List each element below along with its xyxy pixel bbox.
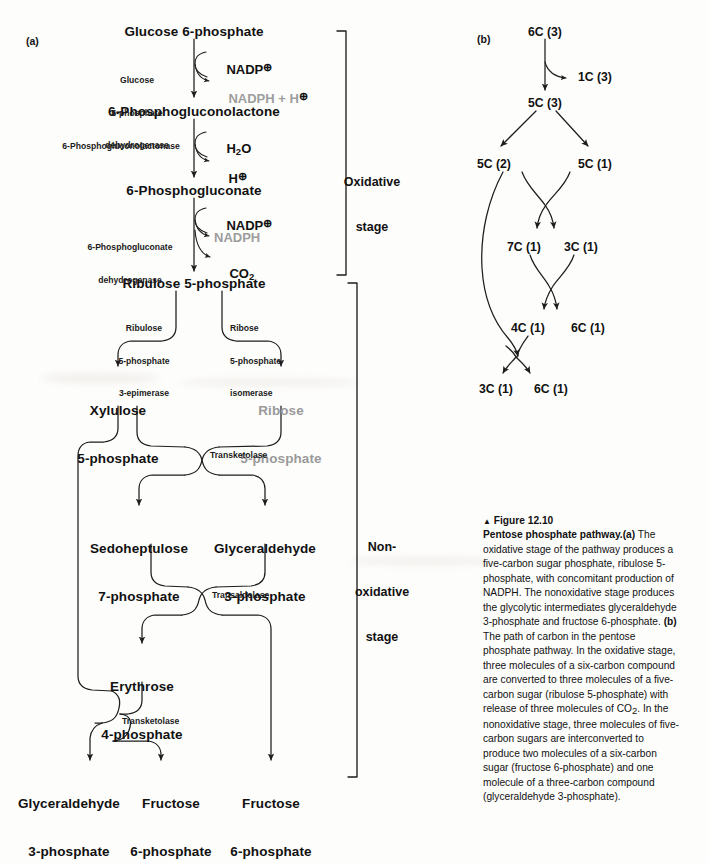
node-6c-1-middle: 6C (1) <box>571 321 605 335</box>
figure-caption: ▲ Figure 12.10 Pentose phosphate pathway… <box>483 514 679 805</box>
stage-label-oxidative: Oxidative stage <box>344 145 400 265</box>
oxidative-line2: stage <box>344 220 400 235</box>
isomerase-line3: isomerase <box>230 388 281 399</box>
cofactor-nadph-2: NADPH <box>214 230 260 245</box>
caption-a-label: (a) <box>623 529 635 540</box>
metabolite-sedoheptulose-7-phosphate: Sedoheptulose 7-phosphate <box>90 509 188 636</box>
oxidative-line1: Oxidative <box>344 175 400 190</box>
node-6c-1-bottom: 6C (1) <box>534 382 568 396</box>
g6pdh-line1: Glucose <box>105 75 169 86</box>
metabolite-fructose-6-phosphate-mid: Fructose 6-phosphate <box>130 764 211 863</box>
pgdh-line2: dehydrogenase <box>88 275 173 286</box>
cofactor-nadph-plus-h-1: NADPH + H⊕ <box>214 75 308 122</box>
node-6c-3: 6C (3) <box>528 25 562 39</box>
nonoxidative-line2: oxidative <box>355 585 409 600</box>
erythrose-line1: Erythrose <box>101 679 182 695</box>
figure-number-line: ▲ Figure 12.10 <box>483 514 679 528</box>
nonoxidative-line3: stage <box>355 630 409 645</box>
erythrose-line2: 4-phosphate <box>101 727 182 743</box>
co2-label: CO <box>229 266 249 281</box>
enzyme-ribose-5-phosphate-isomerase: Ribose 5-phosphate isomerase <box>230 302 281 420</box>
node-1c-3: 1C (3) <box>578 70 612 84</box>
metabolite-fructose-6-phosphate-right: Fructose 6-phosphate <box>230 764 311 863</box>
node-4c-1: 4C (1) <box>511 321 545 335</box>
f6p-right-line1: Fructose <box>230 796 311 812</box>
node-5c-2: 5C (2) <box>477 157 511 171</box>
metabolite-glyceraldehyde-3-phosphate-mid: Glyceraldehyde 3-phosphate <box>214 509 316 636</box>
triangle-marker-icon: ▲ <box>483 517 491 526</box>
enzyme-transaldolase: Transaldolase <box>212 590 269 601</box>
caption-title: Pentose phosphate pathway. <box>483 529 623 540</box>
enzyme-transketolase-1: Transketolase <box>210 450 267 461</box>
node-3c-1-bottom: 3C (1) <box>479 382 513 396</box>
f6p-mid-line1: Fructose <box>130 796 211 812</box>
enzyme-ribulose-5-phosphate-3-epimerase: Ribulose 5-phosphate 3-epimerase <box>118 302 169 420</box>
gap-mid-line1: Glyceraldehyde <box>214 541 316 557</box>
caption-body: Pentose phosphate pathway.(a) The oxidat… <box>483 528 679 804</box>
figure-number: Figure 12.10 <box>494 515 553 526</box>
enzyme-transketolase-2: Transketolase <box>122 716 179 727</box>
caption-b-text: The path of carbon in the pentose phosph… <box>483 631 675 714</box>
f6p-right-line2: 6-phosphate <box>230 844 311 860</box>
plus-circle-icon: ⊕ <box>263 61 272 73</box>
node-7c-1: 7C (1) <box>507 240 541 254</box>
epimerase-line2: 5-phosphate <box>118 356 169 367</box>
proton-h: H <box>228 171 237 186</box>
enzyme-6-phosphogluconate-dehydrogenase: 6-Phosphogluconate dehydrogenase <box>88 221 173 307</box>
g6pdh-line2: 6-phosphate <box>105 108 169 119</box>
plus-circle-icon: ⊕ <box>263 217 272 229</box>
plus-circle-icon: ⊕ <box>299 90 308 102</box>
node-5c-3: 5C (3) <box>528 96 562 110</box>
gap-out-line1: Glyceraldehyde <box>18 796 120 812</box>
enzyme-glucose-6-phosphate-dehydrogenase: Glucose 6-phosphate dehydrogenase <box>105 54 169 172</box>
cofactor-carbon-dioxide: CO2 <box>215 251 254 298</box>
stage-label-nonoxidative: Non- oxidative stage <box>355 510 409 675</box>
co2-subscript: 2 <box>249 271 254 282</box>
gap-out-line2: 3-phosphate <box>18 844 120 860</box>
sedoheptulose-line1: Sedoheptulose <box>90 541 188 557</box>
nonoxidative-line1: Non- <box>355 540 409 555</box>
isomerase-line1: Ribose <box>230 323 281 334</box>
node-3c-1-middle: 3C (1) <box>564 240 598 254</box>
nadph-h-label: NADPH + H <box>228 91 298 106</box>
metabolite-glucose-6-phosphate: Glucose 6-phosphate <box>124 24 263 40</box>
panel-b-label: (b) <box>477 33 490 45</box>
sedoheptulose-line2: 7-phosphate <box>90 589 188 605</box>
caption-b-label: (b) <box>664 616 677 627</box>
epimerase-line1: Ribulose <box>118 323 169 334</box>
metabolite-glyceraldehyde-3-phosphate-output: Glyceraldehyde 3-phosphate <box>18 764 120 863</box>
metabolite-erythrose-4-phosphate: Erythrose 4-phosphate <box>101 647 182 774</box>
panel-a-label: (a) <box>26 35 39 47</box>
isomerase-line2: 5-phosphate <box>230 356 281 367</box>
pgdh-line1: 6-Phosphogluconate <box>88 242 173 253</box>
plus-circle-icon: ⊕ <box>238 170 247 182</box>
enzyme-6-phosphogluconolactonase: 6-Phosphogluconolactonase <box>62 141 179 152</box>
f6p-mid-line2: 6-phosphate <box>130 844 211 860</box>
caption-b-cont: . In the nonoxidative stage, three molec… <box>483 703 679 802</box>
cofactor-proton: H⊕ <box>214 155 247 202</box>
xylulose-line2: 5-phosphate <box>77 451 158 467</box>
caption-a-text: The oxidative stage of the pathway produ… <box>483 529 677 627</box>
epimerase-line3: 3-epimerase <box>118 388 169 399</box>
node-5c-1: 5C (1) <box>578 157 612 171</box>
